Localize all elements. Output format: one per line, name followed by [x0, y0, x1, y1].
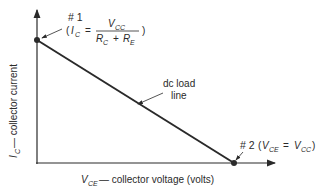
svg-text:=: =	[283, 140, 289, 151]
svg-text:— collector voltage (volts): — collector voltage (volts)	[99, 174, 214, 185]
point-2-leader-arrow	[236, 152, 243, 160]
point-1-id: # 1	[68, 11, 83, 23]
svg-text:C: C	[75, 31, 81, 38]
svg-text:(: (	[66, 25, 70, 36]
svg-text:I: I	[8, 155, 19, 158]
svg-text:CE: CE	[88, 180, 98, 187]
svg-text:E: E	[130, 39, 135, 46]
point-1-marker	[34, 37, 40, 43]
svg-text:=: =	[85, 25, 91, 36]
dc-load-line	[37, 40, 234, 163]
point-2-marker	[231, 160, 237, 166]
svg-text:I: I	[71, 25, 74, 36]
svg-text:): )	[312, 140, 315, 151]
svg-text:# 2: # 2	[240, 139, 255, 151]
load-line-diagram: # 1 ( I C = V CC R C + R E ) dc load lin…	[0, 0, 329, 194]
point-1-leader-arrow	[42, 29, 62, 38]
svg-text:— collector current: — collector current	[8, 64, 19, 148]
svg-text:C: C	[103, 39, 109, 46]
load-line-leader-arrow	[138, 93, 163, 104]
point-2-label: # 2 ( V CE = V CC )	[240, 139, 315, 153]
svg-text:CC: CC	[301, 146, 312, 153]
svg-text:CE: CE	[269, 146, 279, 153]
load-line-label-line1: dc load	[163, 78, 195, 89]
svg-text:+: +	[113, 33, 119, 44]
x-axis-label: V CE — collector voltage (volts)	[81, 174, 214, 187]
svg-text:CC: CC	[115, 24, 126, 31]
y-axis-label: I C — collector current	[8, 64, 21, 158]
svg-text:): )	[142, 25, 145, 36]
load-line-label-line2: line	[171, 90, 187, 101]
